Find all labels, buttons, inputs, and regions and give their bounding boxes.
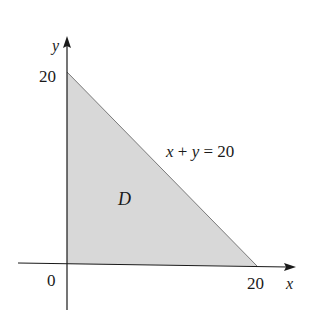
y-axis-label: y	[50, 37, 60, 55]
x-tick-label: 20	[247, 274, 264, 293]
region-label: D	[117, 189, 131, 209]
x-axis-label: x	[285, 275, 293, 292]
origin-label: 0	[47, 271, 56, 290]
region-diagram: y 20 0 20 x D x + y = 20	[0, 0, 325, 323]
boundary-equation-label: x + y = 20	[165, 142, 234, 161]
y-tick-label: 20	[39, 67, 56, 86]
